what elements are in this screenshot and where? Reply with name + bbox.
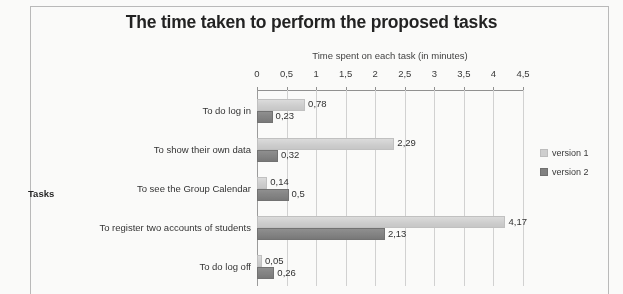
bar-2: 0,32 [257,150,278,162]
bar-value-label: 0,14 [270,176,289,187]
bar-2: 2,13 [257,228,385,240]
bar-value-label: 0,23 [276,110,295,121]
x-axis-tick-label: 2,5 [398,68,411,79]
bar-value-label: 2,29 [397,137,416,148]
chart-category-row: To register two accounts of students4,17… [257,208,523,247]
legend-swatch-icon [540,149,548,157]
bar-value-label: 0,78 [308,98,327,109]
x-axis-tick-label: 3,5 [457,68,470,79]
chart-figure: The time taken to perform the proposed t… [0,0,623,294]
y-axis-category-label: To register two accounts of students [99,222,251,233]
bar-value-label: 4,17 [508,216,527,227]
figure-border-left [30,6,31,294]
y-axis-category-label: To do log off [199,261,251,272]
plot-area: To do log in0,780,23To show their own da… [257,90,523,286]
bar-1: 0,14 [257,177,267,189]
legend-label: version 2 [552,167,589,177]
x-axis-tick-label: 4,5 [516,68,529,79]
x-axis-tick-label: 0 [254,68,259,79]
legend-label: version 1 [552,148,589,158]
chart-category-row: To show their own data2,290,32 [257,129,523,168]
y-axis-category-label: To do log in [202,104,251,115]
bar-2: 0,5 [257,189,289,201]
bar-value-label: 0,05 [265,255,284,266]
legend-item: version 2 [540,167,589,177]
bar-value-label: 0,5 [292,188,305,199]
y-axis-title: Tasks [28,188,54,199]
bar-2: 0,26 [257,267,274,279]
bar-value-label: 2,13 [388,228,407,239]
bar-1: 0,05 [257,255,262,267]
chart-legend: version 1version 2 [540,148,589,186]
legend-swatch-icon [540,168,548,176]
x-axis-tick-label: 1 [313,68,318,79]
bar-1: 2,29 [257,138,394,150]
y-axis-category-label: To show their own data [154,143,251,154]
x-axis-tick-label: 0,5 [280,68,293,79]
x-axis-title: Time spent on each task (in minutes) [257,50,523,61]
x-axis-tick-label: 2 [373,68,378,79]
x-axis-tick-label: 1,5 [339,68,352,79]
bar-value-label: 0,26 [277,267,296,278]
bar-1: 0,78 [257,99,305,111]
chart-category-row: To see the Group Calendar0,140,5 [257,168,523,207]
y-axis-category-label: To see the Group Calendar [137,182,251,193]
chart-title: The time taken to perform the proposed t… [0,12,623,33]
legend-item: version 1 [540,148,589,158]
figure-border-right [608,6,609,294]
bar-2: 0,23 [257,111,273,123]
gridline [523,90,524,286]
x-axis-tick [523,87,524,90]
bar-1: 4,17 [257,216,505,228]
figure-border-top [30,6,609,7]
x-axis-tick-label: 3 [432,68,437,79]
x-axis-tick-label: 4 [491,68,496,79]
chart-category-row: To do log off0,050,26 [257,247,523,286]
x-axis-tick-labels: 00,511,522,533,544,5 [257,68,523,82]
bar-value-label: 0,32 [281,149,300,160]
chart-category-row: To do log in0,780,23 [257,90,523,129]
